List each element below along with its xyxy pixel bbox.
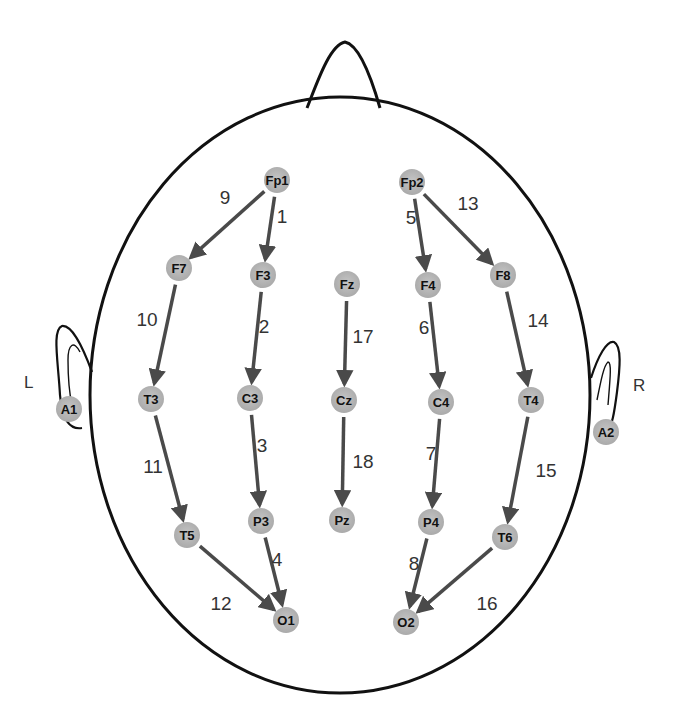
channel-number-label: 14 [527, 310, 549, 331]
electrode-label: O2 [397, 615, 414, 630]
channel-number-label: 1 [277, 206, 288, 227]
channel-number-label: 8 [409, 553, 420, 574]
electrode-label: Fp1 [265, 173, 288, 188]
channel-arrow-18 [342, 417, 343, 504]
electrode-label: Fz [340, 277, 355, 292]
channel-number-label: 15 [535, 460, 556, 481]
channel-number-label: 16 [476, 593, 497, 614]
electrode-label: A2 [598, 425, 615, 440]
left-side-label: L [24, 373, 33, 392]
electrode-fp2: Fp2 [399, 169, 425, 195]
channel-arrow-17 [344, 301, 346, 384]
electrode-t6: T6 [492, 524, 518, 550]
electrode-label: Cz [336, 393, 352, 408]
electrode-cz: Cz [331, 387, 357, 413]
electrode-a1: A1 [56, 396, 82, 422]
electrode-f3: F3 [250, 262, 276, 288]
channel-number-label: 5 [406, 207, 417, 228]
electrode-label: P4 [423, 515, 440, 530]
electrode-label: F7 [171, 261, 186, 276]
channel-number-label: 11 [143, 456, 163, 477]
channel-number-label: 9 [220, 187, 231, 208]
electrode-label: T3 [143, 392, 158, 407]
electrode-f4: F4 [415, 272, 441, 298]
channel-arrow-14 [507, 292, 528, 385]
electrode-label: F4 [420, 278, 436, 293]
channel-number-label: 17 [352, 326, 373, 347]
electrode-t4: T4 [518, 387, 544, 413]
channel-number-label: 3 [257, 435, 268, 456]
electrode-fz: Fz [334, 271, 360, 297]
electrode-c3: C3 [237, 385, 263, 411]
electrode-p3: P3 [248, 508, 274, 534]
electrode-label: A1 [61, 402, 78, 417]
right-side-label: R [633, 376, 645, 395]
electrode-label: F3 [255, 268, 270, 283]
channel-arrow-4 [265, 537, 282, 604]
electrode-c4: C4 [428, 389, 454, 415]
channel-number-label: 6 [419, 317, 430, 338]
electrode-o1: O1 [273, 607, 299, 633]
channel-number-label: 10 [136, 309, 157, 330]
electrode-o2: O2 [393, 609, 419, 635]
electrode-fp1: Fp1 [264, 167, 290, 193]
channel-arrow-1 [265, 197, 274, 259]
electrode-a2: A2 [593, 419, 619, 445]
channel-number-label: 7 [426, 443, 437, 464]
channel-number-label: 4 [272, 549, 283, 570]
channel-number-label: 12 [210, 593, 231, 614]
electrode-f7: F7 [166, 255, 192, 281]
channel-number-label: 18 [352, 451, 373, 472]
channel-arrow-15 [508, 417, 528, 522]
electrode-p4: P4 [418, 509, 444, 535]
electrode-f8: F8 [490, 262, 516, 288]
electrode-label: C3 [242, 391, 259, 406]
electrode-label: O1 [277, 613, 294, 628]
channel-number-label: 2 [259, 316, 270, 337]
electrode-label: T6 [497, 530, 512, 545]
eeg-montage-diagram: L R 123456789101112131415161718 Fp1Fp2F7… [0, 0, 682, 723]
electrode-label: P3 [253, 514, 269, 529]
electrode-label: Pz [334, 513, 350, 528]
channel-number-label: 13 [457, 193, 478, 214]
electrode-label: T5 [179, 528, 194, 543]
right-ear [591, 342, 620, 430]
electrode-t5: T5 [174, 522, 200, 548]
channel-arrow-3 [252, 415, 260, 505]
electrode-label: T4 [523, 393, 539, 408]
channel-arrow-10 [154, 285, 175, 384]
channel-arrow-6 [430, 302, 439, 386]
electrode-pz: Pz [329, 507, 355, 533]
electrode-label: F8 [495, 268, 510, 283]
electrode-label: Fp2 [400, 175, 423, 190]
electrode-t3: T3 [138, 386, 164, 412]
electrodes: Fp1Fp2F7F3FzF4F8A1T3C3CzC4T4A2T5P3PzP4T6… [56, 167, 619, 635]
electrode-label: C4 [433, 395, 450, 410]
